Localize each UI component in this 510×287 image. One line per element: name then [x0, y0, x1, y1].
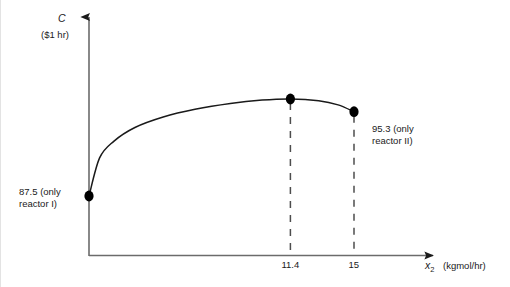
marker-origin-point — [84, 191, 93, 202]
marker-end-point — [349, 106, 358, 117]
x-axis-label-units: (kgmol/hr) — [443, 260, 486, 272]
x-axis-label-subscript: 2 — [430, 265, 434, 274]
x-tick-label-15: 15 — [349, 259, 360, 271]
plot-canvas — [1, 0, 510, 287]
y-axis-label-symbol: C — [58, 12, 66, 24]
x-tick-label-11-4: 11.4 — [281, 259, 299, 271]
right-annotation-line-2: reactor II) — [372, 135, 414, 147]
chart-figure: C ($1 hr) x2 (kgmol/hr) 11.4 15 87.5 (on… — [0, 0, 510, 287]
left-annotation-line-2: reactor I) — [19, 198, 61, 210]
cost-curve — [89, 99, 354, 196]
right-annotation-line-1: 95.3 (only — [372, 123, 414, 135]
y-axis-label-units: ($1 hr) — [41, 29, 69, 41]
marker-optimum-point — [286, 94, 295, 105]
right-annotation: 95.3 (only reactor II) — [372, 123, 414, 147]
left-annotation: 87.5 (only reactor I) — [19, 186, 61, 210]
left-annotation-line-1: 87.5 (only — [19, 186, 61, 198]
x-axis-label-symbol: x2 — [425, 259, 434, 276]
